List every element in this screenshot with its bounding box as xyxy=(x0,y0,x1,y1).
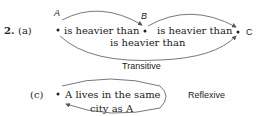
property-reflexive: Reflexive xyxy=(188,90,225,100)
part-a-label: (a) xyxy=(18,25,32,36)
node-a-dot-c xyxy=(57,93,60,96)
node-a-label: A xyxy=(53,8,60,18)
arrow-a-to-b xyxy=(62,11,142,25)
node-b-dot xyxy=(144,30,147,33)
relation-diagrams: 2. (a) A is heavier than B is heavier th… xyxy=(0,0,262,116)
node-b-label: B xyxy=(141,11,147,21)
problem-number: 2. xyxy=(4,25,14,36)
edge-bc-label: is heavier than xyxy=(157,25,233,36)
reflexive-text-line1: A lives in the same xyxy=(64,89,161,100)
edge-ab-label: is heavier than xyxy=(64,25,140,36)
node-a-dot xyxy=(57,29,60,32)
node-c-label: C xyxy=(246,27,253,37)
property-transitive: Transitive xyxy=(122,61,161,71)
reflexive-text-line2: city as A xyxy=(90,103,134,114)
node-c-dot xyxy=(237,31,240,34)
part-c-label: (c) xyxy=(30,89,44,100)
edge-ac-label: is heavier than xyxy=(110,37,186,48)
